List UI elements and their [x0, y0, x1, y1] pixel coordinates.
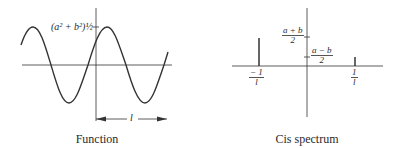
- positive-frequency-label: 1 l: [351, 68, 358, 87]
- spectrum-caption: Cis spectrum: [267, 132, 347, 147]
- lower-amplitude-label: a − b 2: [311, 46, 333, 65]
- arrowhead-right-icon: [157, 117, 167, 122]
- pos-freq-denominator: l: [351, 78, 358, 87]
- neg-freq-denominator: l: [249, 78, 264, 87]
- upper-amplitude-label: a + b 2: [282, 26, 304, 45]
- amplitude-label: (a² + b²)½: [51, 22, 93, 32]
- function-caption: Function: [67, 132, 127, 147]
- lower-label-denominator: 2: [311, 56, 333, 65]
- function-plot: [21, 8, 172, 122]
- arrowhead-left-icon: [96, 117, 106, 122]
- period-label: l: [130, 113, 133, 123]
- spectrum-plot: [232, 8, 383, 117]
- negative-frequency-label: − 1 l: [249, 68, 264, 87]
- upper-label-denominator: 2: [282, 36, 304, 45]
